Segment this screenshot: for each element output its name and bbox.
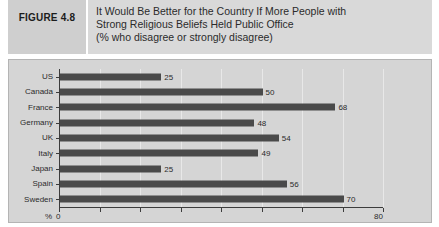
x-axis-tick — [262, 208, 263, 212]
bar — [60, 180, 287, 187]
bar — [60, 134, 279, 141]
category-label: Italy — [9, 149, 56, 158]
bar-value-label: 56 — [290, 179, 299, 188]
bar — [60, 165, 161, 172]
bar-row: US25 — [9, 69, 431, 84]
bar-row: France68 — [9, 100, 431, 115]
bar — [60, 150, 258, 157]
bar-row: Japan25 — [9, 161, 431, 176]
category-label: UK — [9, 133, 56, 142]
bar-row: Sweden70 — [9, 192, 431, 207]
figure-container: FIGURE 4.8 It Would Be Better for the Co… — [0, 0, 439, 227]
chart-panel: 080%US25Canada50France68Germany48UK54Ita… — [8, 59, 432, 223]
y-axis-tick — [56, 184, 59, 185]
category-label: US — [9, 72, 56, 81]
bar-row: Germany48 — [9, 115, 431, 130]
x-axis-tick — [181, 208, 182, 212]
x-axis-tick — [140, 208, 141, 212]
category-label: Germany — [9, 118, 56, 127]
bar-value-label: 48 — [257, 118, 266, 127]
x-axis-tick — [302, 208, 303, 212]
bar-value-label: 49 — [261, 149, 270, 158]
x-axis-tick — [383, 208, 384, 212]
y-axis-tick — [56, 169, 59, 170]
category-label: Canada — [9, 87, 56, 96]
figure-title-block: It Would Be Better for the Country If Mo… — [88, 0, 432, 44]
x-axis-unit-label: % — [45, 212, 52, 221]
category-label: Sweden — [9, 195, 56, 204]
y-axis-tick — [56, 138, 59, 139]
y-axis-tick — [56, 92, 59, 93]
y-axis-tick — [56, 123, 59, 124]
bar — [60, 73, 161, 80]
bar-row: UK54 — [9, 130, 431, 145]
category-label: France — [9, 103, 56, 112]
bar-row: Canada50 — [9, 84, 431, 99]
x-axis-tick-label: 80 — [374, 212, 383, 221]
figure-title-line-2: Strong Religious Beliefs Held Public Off… — [96, 18, 426, 31]
bar-value-label: 50 — [266, 87, 275, 96]
category-label: Spain — [9, 179, 56, 188]
figure-number-label: FIGURE 4.8 — [19, 12, 75, 23]
category-label: Japan — [9, 164, 56, 173]
bar — [60, 119, 254, 126]
x-axis-tick-label: 0 — [56, 212, 60, 221]
bar-row: Spain56 — [9, 176, 431, 191]
x-axis-tick — [343, 208, 344, 212]
plot-area: 080%US25Canada50France68Germany48UK54Ita… — [9, 60, 431, 222]
bar — [60, 196, 344, 203]
y-axis-tick — [56, 199, 59, 200]
bar-rows: US25Canada50France68Germany48UK54Italy49… — [9, 69, 431, 207]
bar-value-label: 25 — [164, 72, 173, 81]
y-axis-tick — [56, 107, 59, 108]
y-axis-tick — [56, 77, 59, 78]
y-axis-tick — [56, 153, 59, 154]
bar-row: Italy49 — [9, 146, 431, 161]
bar — [60, 88, 263, 95]
bar-value-label: 68 — [338, 103, 347, 112]
figure-title-line-1: It Would Be Better for the Country If Mo… — [96, 5, 426, 18]
x-axis-tick — [100, 208, 101, 212]
bar-value-label: 70 — [347, 195, 356, 204]
bar-value-label: 25 — [164, 164, 173, 173]
figure-header: FIGURE 4.8 It Would Be Better for the Co… — [8, 0, 432, 54]
bar — [60, 104, 335, 111]
figure-subtitle: (% who disagree or strongly disagree) — [96, 31, 426, 44]
x-axis-tick — [221, 208, 222, 212]
bar-value-label: 54 — [282, 133, 291, 142]
figure-number-box: FIGURE 4.8 — [8, 0, 86, 54]
